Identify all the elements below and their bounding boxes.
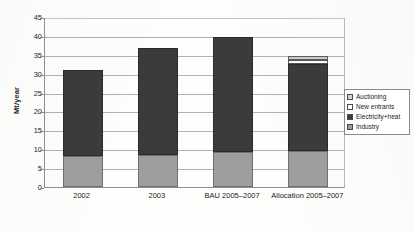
y-axis-tick-label: 5	[16, 165, 42, 173]
bar-segment-auctioning[interactable]	[288, 56, 328, 61]
legend-item-label: Electricity+heat	[356, 114, 400, 121]
y-axis-tick-label: 0	[16, 184, 42, 192]
stacked-bar[interactable]	[213, 17, 253, 187]
legend-item[interactable]: New entrants	[347, 102, 407, 112]
stacked-bar[interactable]	[138, 17, 178, 187]
plot-area	[44, 18, 345, 188]
legend-swatch-icon	[347, 94, 353, 100]
legend-item[interactable]: Industry	[347, 122, 407, 132]
legend-item-label: New entrants	[356, 104, 394, 111]
bar-segment-new-entrants[interactable]	[288, 60, 328, 64]
bar-group	[213, 17, 253, 187]
legend-swatch-icon	[347, 104, 353, 110]
y-axis-tick-label: 15	[16, 127, 42, 135]
bar-segment-electricity-heat[interactable]	[213, 37, 253, 152]
bar-group	[288, 17, 328, 187]
y-axis-tick-label: 35	[16, 52, 42, 60]
legend-item[interactable]: Electricity+heat	[347, 112, 407, 122]
legend-item[interactable]: Auctioning	[347, 92, 407, 102]
y-axis-tick-label: 40	[16, 33, 42, 41]
chart-legend: AuctioningNew entrantsElectricity+heatIn…	[344, 89, 410, 135]
y-axis-tick-mark	[40, 188, 44, 189]
y-axis-tick-label: 45	[16, 14, 42, 22]
y-axis-tick-label: 25	[16, 90, 42, 98]
bar-segment-industry[interactable]	[213, 152, 253, 187]
x-axis-tick-label: Allocation 2005–2007	[237, 192, 377, 200]
y-axis-tick-label: 30	[16, 71, 42, 79]
bar-group	[63, 17, 103, 187]
stacked-bar[interactable]	[288, 17, 328, 187]
chart-figure: Mt/year 051015202530354045 20022003BAU 2…	[0, 0, 414, 232]
bar-segment-industry[interactable]	[288, 151, 328, 187]
bar-segment-electricity-heat[interactable]	[63, 70, 103, 156]
legend-item-label: Auctioning	[356, 94, 386, 101]
y-axis-tick-label: 20	[16, 108, 42, 116]
bar-segment-electricity-heat[interactable]	[288, 64, 328, 151]
legend-item-label: Industry	[356, 124, 379, 131]
bar-segment-industry[interactable]	[63, 156, 103, 187]
y-axis-title: Mt/year	[12, 71, 21, 131]
bar-segment-industry[interactable]	[138, 155, 178, 187]
bar-segment-electricity-heat[interactable]	[138, 48, 178, 155]
y-axis-tick-label: 10	[16, 146, 42, 154]
legend-swatch-icon	[347, 124, 353, 130]
stacked-bar[interactable]	[63, 17, 103, 187]
legend-swatch-icon	[347, 114, 353, 120]
bar-group	[138, 17, 178, 187]
